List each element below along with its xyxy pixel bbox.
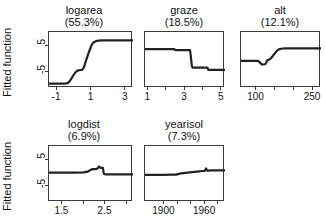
panel-alt-xtick-3 xyxy=(293,87,294,90)
panel-alt-title-line1: alt xyxy=(237,4,323,16)
panel-logarea-xtick-1 xyxy=(56,87,57,90)
panel-yearisol-plot-area xyxy=(144,145,224,201)
panel-alt-xtick-label-1: 100 xyxy=(247,92,264,102)
panel-logdist-xtick-2 xyxy=(83,201,84,204)
panel-alt-title: alt (12.1%) xyxy=(237,4,323,28)
panel-yearisol-xtick-3 xyxy=(190,201,191,204)
panel-graze-title-line1: graze xyxy=(140,4,228,16)
panel-yearisol-title-line2: (7.3%) xyxy=(140,130,228,142)
panel-alt-xtick-2 xyxy=(274,87,275,90)
panel-logarea-title: logarea (55.3%) xyxy=(36,4,132,28)
panel-logdist-xtick-1 xyxy=(61,201,62,204)
panel-alt-xtick-4 xyxy=(312,87,313,90)
panel-yearisol-curve-svg xyxy=(145,146,225,202)
panel-logarea-ytick-1 xyxy=(45,45,48,46)
panel-alt-plot-area xyxy=(240,31,320,87)
panel-logarea-plot-area xyxy=(48,31,132,87)
panel-yearisol-xtick-1 xyxy=(163,201,164,204)
panel-yearisol-xtick-5 xyxy=(217,201,218,204)
panel-logdist-xtick-4 xyxy=(126,201,127,204)
panel-alt-curve-svg xyxy=(241,32,321,88)
panel-graze-xtick-2 xyxy=(165,87,166,90)
panel-yearisol-title: yearisol (7.3%) xyxy=(140,118,228,142)
panel-logarea-curve xyxy=(49,40,133,83)
panel-logdist-ytick-label-2: -5 xyxy=(37,179,47,188)
panel-yearisol-curve xyxy=(145,168,225,175)
panel-logdist-curve xyxy=(49,167,133,175)
panel-logarea: logarea (55.3%) 5 -5 -1 1 3 xyxy=(36,4,132,108)
panel-yearisol-title-line1: yearisol xyxy=(140,118,228,130)
panel-logdist-xtick-label-3: 2.5 xyxy=(98,206,112,216)
panel-graze-xtick-1 xyxy=(147,87,148,90)
y-axis-title-row1: Fitted function xyxy=(2,22,13,102)
panel-alt-xtick-1 xyxy=(255,87,256,90)
panel-logarea-xtick-label-1: -1 xyxy=(52,92,61,102)
y-axis-title-row2: Fitted function xyxy=(2,136,13,216)
panel-graze-curve-svg xyxy=(145,32,225,88)
panel-graze-curve xyxy=(145,49,225,70)
panel-logarea-xtick-label-2: 1 xyxy=(88,92,94,102)
panel-yearisol: yearisol (7.3%) 1900 1960 xyxy=(140,118,228,222)
panel-logdist-ytick-1 xyxy=(45,159,48,160)
panel-logdist-xtick-label-1: 1.5 xyxy=(54,206,68,216)
panel-logdist-plot-area xyxy=(48,145,132,201)
panel-logarea-curve-svg xyxy=(49,32,133,88)
panel-logdist-title: logdist (6.9%) xyxy=(36,118,132,142)
panel-logarea-ytick-label-2: -5 xyxy=(37,65,47,74)
panel-logarea-title-line2: (55.3%) xyxy=(36,16,132,28)
partial-dependence-figure: Fitted function Fitted function logarea … xyxy=(0,0,325,223)
panel-graze-xtick-4 xyxy=(202,87,203,90)
panel-yearisol-xtick-4 xyxy=(204,201,205,204)
panel-graze-xtick-label-5: 5 xyxy=(218,92,224,102)
panel-logdist-title-line2: (6.9%) xyxy=(36,130,132,142)
panel-graze-plot-area xyxy=(144,31,224,87)
panel-logdist-ytick-label-1: 5 xyxy=(37,153,47,159)
panel-graze-title: graze (18.5%) xyxy=(140,4,228,28)
panel-logarea-ytick-label-1: 5 xyxy=(37,39,47,45)
panel-logdist-title-line1: logdist xyxy=(36,118,132,130)
panel-graze-xtick-label-3: 3 xyxy=(181,92,187,102)
panel-graze-xtick-label-1: 1 xyxy=(145,92,151,102)
panel-logarea-xtick-3 xyxy=(124,87,125,90)
panel-graze-xtick-3 xyxy=(184,87,185,90)
panel-graze: graze (18.5%) 1 3 5 xyxy=(140,4,228,108)
panel-alt: alt (12.1%) 100 250 xyxy=(237,4,323,108)
panel-alt-curve xyxy=(241,48,321,64)
panel-logdist-xtick-3 xyxy=(104,201,105,204)
panel-yearisol-xtick-label-1: 1900 xyxy=(152,206,174,216)
panel-alt-xtick-label-4: 250 xyxy=(304,92,321,102)
panel-logdist-curve-svg xyxy=(49,146,133,202)
panel-logarea-xtick-label-3: 3 xyxy=(122,92,128,102)
panel-logarea-title-line1: logarea xyxy=(36,4,132,16)
panel-graze-xtick-5 xyxy=(220,87,221,90)
panel-logarea-xtick-2 xyxy=(90,87,91,90)
panel-yearisol-xtick-label-4: 1960 xyxy=(193,206,215,216)
panel-graze-title-line2: (18.5%) xyxy=(140,16,228,28)
panel-alt-title-line2: (12.1%) xyxy=(237,16,323,28)
panel-logdist: logdist (6.9%) 5 -5 1.5 2.5 xyxy=(36,118,132,222)
panel-yearisol-xtick-2 xyxy=(177,201,178,204)
